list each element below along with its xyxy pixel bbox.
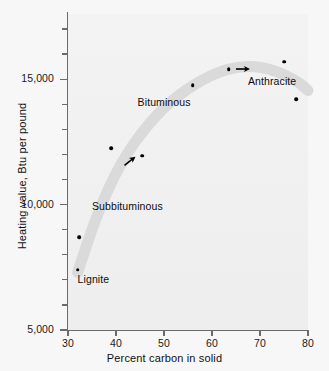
region-label-lignite: Lignite xyxy=(78,273,110,285)
x-tick-label: 40 xyxy=(110,337,122,349)
y-tick-minor xyxy=(62,304,68,305)
y-tick-minor xyxy=(62,53,68,54)
x-axis-title: Percent carbon in solid xyxy=(0,352,329,364)
y-axis-line xyxy=(67,12,68,332)
data-point xyxy=(294,97,298,101)
data-point xyxy=(109,146,113,150)
x-tick-major xyxy=(163,330,164,336)
x-axis-line xyxy=(67,330,309,331)
data-point xyxy=(76,268,80,272)
region-label-subbituminous: Subbituminous xyxy=(92,200,163,212)
x-tick-label: 60 xyxy=(206,337,218,349)
data-point xyxy=(191,84,195,88)
data-point xyxy=(282,60,286,64)
arrow-anthracite-icon xyxy=(234,60,252,82)
y-axis-title: Heating value, Btu per pound xyxy=(16,66,28,286)
y-tick-minor xyxy=(62,254,68,255)
region-label-anthracite: Anthracite xyxy=(248,75,296,87)
x-tick-major xyxy=(307,330,308,336)
region-label-bituminous: Bituminous xyxy=(138,96,191,108)
y-tick-minor xyxy=(62,28,68,29)
y-tick-minor xyxy=(62,229,68,230)
x-tick-major xyxy=(115,330,116,336)
data-point xyxy=(141,154,145,158)
y-tick-minor xyxy=(62,179,68,180)
y-tick-minor xyxy=(62,154,68,155)
x-tick-major xyxy=(211,330,212,336)
arrow-subbituminous-icon xyxy=(121,152,139,174)
y-tick-label: 5,000 xyxy=(27,323,54,335)
y-tick-minor xyxy=(62,279,68,280)
plot-area: LigniteSubbituminousBituminousAnthracite xyxy=(68,14,308,330)
trend-band-path xyxy=(78,66,308,272)
chart-figure: LigniteSubbituminousBituminousAnthracite… xyxy=(0,0,329,371)
y-tick-minor xyxy=(62,104,68,105)
data-point xyxy=(227,67,231,71)
y-tick-minor xyxy=(62,129,68,130)
data-point xyxy=(77,235,81,239)
y-tick-major xyxy=(60,204,68,205)
x-tick-label: 50 xyxy=(158,337,170,349)
y-tick-major xyxy=(60,79,68,80)
x-tick-major xyxy=(259,330,260,336)
x-tick-label: 70 xyxy=(254,337,266,349)
x-tick-label: 30 xyxy=(62,337,74,349)
x-tick-major xyxy=(67,330,68,336)
x-tick-label: 80 xyxy=(302,337,314,349)
